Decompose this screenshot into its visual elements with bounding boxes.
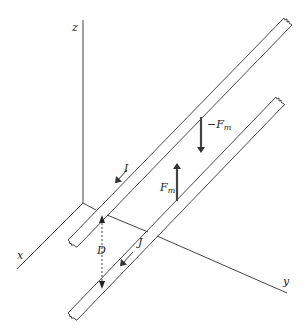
force-symbol: F (216, 118, 224, 131)
force-symbol: F (160, 181, 168, 194)
lower-strip (68, 97, 285, 320)
x-axis-label: x (17, 250, 23, 261)
z-axis-label: z (72, 22, 78, 33)
diagram-canvas: z x y I J D −Fm Fm (0, 0, 307, 335)
x-axis (17, 203, 83, 269)
separation-label: D (97, 245, 106, 256)
force-label-upper: −Fm (207, 119, 231, 132)
force-label-lower: Fm (160, 182, 175, 195)
current-arrow-j (122, 252, 133, 264)
force-sign: − (207, 118, 216, 131)
force-subscript: m (168, 186, 176, 195)
current-label-i: I (124, 163, 128, 174)
current-label-j: J (138, 237, 142, 248)
diagram-svg (0, 0, 307, 335)
separation-arrowhead-bottom (99, 281, 105, 289)
y-axis-label: y (283, 276, 289, 287)
y-axis-seg3 (157, 236, 287, 293)
y-axis-seg2 (107, 215, 148, 232)
y-axis-seg1 (83, 203, 96, 210)
force-subscript: m (224, 123, 232, 132)
